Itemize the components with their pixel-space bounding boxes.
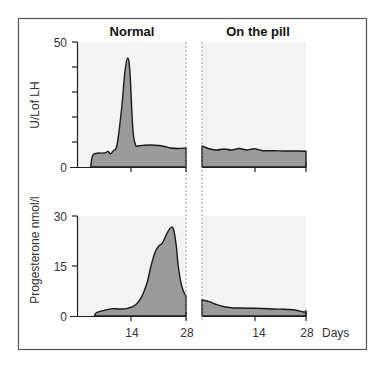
prog-ytick-0: 0 (60, 310, 67, 324)
lh-ytick-0: 0 (60, 161, 67, 175)
normal-xtick-28: 28 (180, 326, 194, 340)
lh-ytick-50: 50 (54, 36, 68, 50)
progesterone-y-label: Progesterone nmol/l (28, 196, 42, 303)
pill-xtick-14: 14 (252, 326, 266, 340)
prog-ytick-30: 30 (54, 210, 68, 224)
prog-y-axis (72, 216, 78, 316)
prog-ytick-15: 15 (54, 260, 68, 274)
pill-xtick-28: 28 (300, 326, 314, 340)
lh-y-label: U/Lof LH (28, 81, 42, 128)
title-normal: Normal (110, 24, 155, 39)
lh-y-axis (72, 42, 78, 167)
title-pill: On the pill (226, 24, 290, 39)
x-axis-unit-days: Days (322, 326, 349, 340)
normal-xtick-14: 14 (125, 326, 139, 340)
hormone-chart: Normal On the pill 50 0 30 15 0 14 28 14… (0, 0, 385, 369)
prog-pill-panel (202, 216, 306, 316)
figure-frame (19, 19, 367, 350)
